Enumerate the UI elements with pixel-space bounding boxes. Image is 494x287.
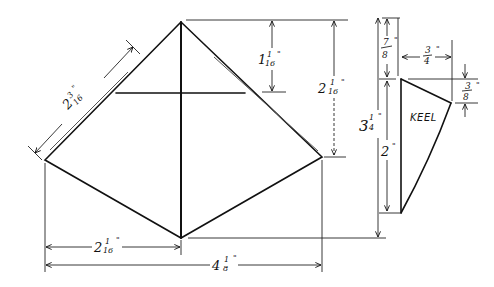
svg-text:": " <box>70 83 79 92</box>
svg-text:2: 2 <box>380 144 389 159</box>
dim-half-width: 2 1 16 " <box>46 235 180 255</box>
svg-text:7: 7 <box>383 37 389 47</box>
svg-text:": " <box>116 235 120 244</box>
svg-text:1: 1 <box>369 113 374 122</box>
svg-text:3: 3 <box>425 45 431 55</box>
svg-text:16: 16 <box>328 87 338 96</box>
kite-diagram: 2 3 16 " 1 1 16 " 2 1 16 " 3 1 4 " <box>0 0 494 287</box>
svg-text:8: 8 <box>463 92 469 102</box>
dim-edge-upper-left: 2 3 16 " <box>28 40 140 160</box>
svg-text:16: 16 <box>103 246 113 255</box>
svg-text:2: 2 <box>317 81 326 96</box>
svg-text:8: 8 <box>223 264 228 273</box>
svg-text:1: 1 <box>105 237 110 246</box>
dim-keel-width: 3 4 " <box>402 44 451 66</box>
svg-text:": " <box>378 111 382 120</box>
svg-text:": " <box>341 77 345 86</box>
dim-top-to-wingtip: 2 1 16 " <box>317 21 346 157</box>
svg-text:4: 4 <box>211 258 220 273</box>
svg-text:16: 16 <box>265 59 275 68</box>
svg-text:1: 1 <box>330 78 335 87</box>
svg-text:4: 4 <box>423 56 430 66</box>
dim-keel-offset-top: 7 8 " <box>379 19 398 79</box>
dim-keel-corner-drop: 3 8 " <box>462 64 480 117</box>
svg-text:4: 4 <box>368 123 374 132</box>
dim-total-height: 3 1 4 " <box>188 18 386 238</box>
svg-text:1: 1 <box>267 50 272 59</box>
svg-text:": " <box>392 141 396 150</box>
svg-text:": " <box>476 80 480 89</box>
svg-text:8: 8 <box>382 50 388 60</box>
svg-text:1: 1 <box>224 255 229 264</box>
dim-top-to-crossbar: 1 1 16 " <box>258 21 286 92</box>
svg-text:": " <box>277 49 281 58</box>
svg-text:2: 2 <box>93 240 102 255</box>
svg-text:": " <box>436 44 440 53</box>
svg-text:": " <box>233 253 237 262</box>
dim-keel-height: 2 " <box>379 81 400 213</box>
svg-text:3: 3 <box>359 117 369 135</box>
keel: KEEL <box>401 79 451 213</box>
svg-text:3: 3 <box>465 81 471 91</box>
svg-text:KEEL: KEEL <box>410 112 437 123</box>
dim-total-width: 4 1 8 " <box>46 253 321 273</box>
svg-text:": " <box>394 35 398 44</box>
